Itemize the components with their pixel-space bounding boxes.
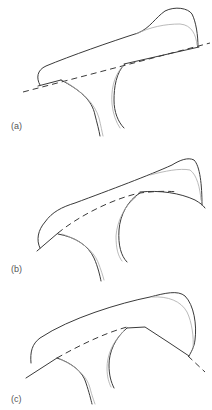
panel-a-label: (a): [11, 121, 22, 131]
panel-a-right-stem: [114, 64, 125, 128]
panel-b-left-stem: [58, 234, 101, 281]
panel-c-inner-outline: [152, 297, 193, 348]
panel-a-reference-line: [23, 43, 210, 92]
panel-c-label: (c): [11, 394, 22, 404]
panel-a-left-stem-inner: [64, 81, 103, 136]
panel-b: [37, 159, 205, 281]
panel-b-lower-edge-left: [37, 233, 58, 251]
panel-b-left-stem-inner: [62, 234, 104, 280]
panel-c-left-stem: [57, 358, 92, 404]
panel-b-reference-line: [58, 191, 178, 233]
panel-c-reference-line: [57, 327, 127, 358]
panel-a: [23, 8, 210, 136]
diagram-canvas: [0, 0, 212, 410]
panel-b-inner-outline: [150, 169, 201, 200]
panel-c-lower-edge-right: [127, 327, 189, 356]
panel-c: [26, 293, 205, 404]
panel-c-outline: [31, 293, 196, 363]
panel-a-inner-outline: [136, 24, 197, 45]
panel-b-lower-edge-right: [140, 191, 205, 208]
panel-c-reference-line-tail: [188, 356, 205, 372]
panel-a-lower-edge-right: [124, 47, 199, 64]
panel-b-label: (b): [11, 264, 22, 274]
